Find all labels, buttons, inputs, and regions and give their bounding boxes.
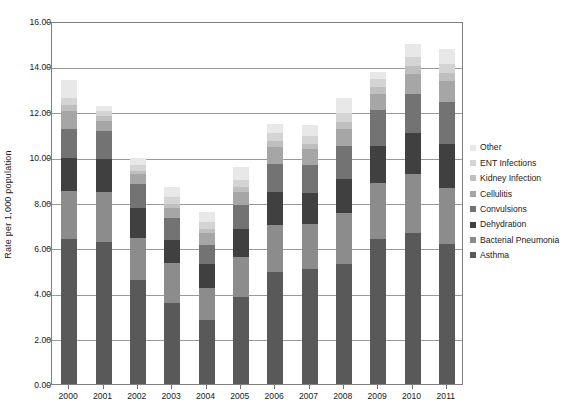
- bar-segment[interactable]: [302, 193, 318, 224]
- bar-segment[interactable]: [61, 129, 77, 158]
- bar-group[interactable]: [405, 23, 421, 384]
- bar-segment[interactable]: [164, 187, 180, 197]
- bar-segment[interactable]: [199, 212, 215, 222]
- legend-item[interactable]: Asthma: [470, 248, 586, 263]
- bar-segment[interactable]: [405, 74, 421, 93]
- bar-segment[interactable]: [405, 66, 421, 74]
- legend-item[interactable]: ENT Infections: [470, 155, 586, 170]
- bar-segment[interactable]: [233, 257, 249, 297]
- bar-segment[interactable]: [267, 147, 283, 164]
- bar-segment[interactable]: [439, 244, 455, 384]
- bar-segment[interactable]: [439, 73, 455, 81]
- bar-segment[interactable]: [336, 98, 352, 113]
- bar-segment[interactable]: [96, 159, 112, 192]
- bar-group[interactable]: [61, 23, 77, 384]
- bar-segment[interactable]: [96, 131, 112, 159]
- bar-segment[interactable]: [233, 167, 249, 179]
- bar-segment[interactable]: [96, 242, 112, 384]
- bar-segment[interactable]: [96, 121, 112, 131]
- legend-item[interactable]: Kidney Infection: [470, 171, 586, 186]
- bar-segment[interactable]: [405, 94, 421, 134]
- bar-segment[interactable]: [439, 188, 455, 245]
- bar-segment[interactable]: [370, 79, 386, 87]
- legend-item[interactable]: Convulsions: [470, 202, 586, 217]
- bar-group[interactable]: [233, 23, 249, 384]
- bar-segment[interactable]: [164, 263, 180, 304]
- bar-segment[interactable]: [267, 133, 283, 141]
- bar-group[interactable]: [96, 23, 112, 384]
- bar-segment[interactable]: [199, 233, 215, 244]
- bar-segment[interactable]: [61, 239, 77, 384]
- legend-item[interactable]: Dehydration: [470, 217, 586, 232]
- bar-segment[interactable]: [233, 205, 249, 229]
- bar-segment[interactable]: [199, 264, 215, 288]
- bar-segment[interactable]: [336, 179, 352, 213]
- bar-segment[interactable]: [130, 280, 146, 384]
- legend-item[interactable]: Other: [470, 140, 586, 155]
- bar-segment[interactable]: [336, 122, 352, 129]
- bar-segment[interactable]: [302, 269, 318, 384]
- bar-segment[interactable]: [302, 125, 318, 135]
- bar-segment[interactable]: [405, 233, 421, 384]
- bar-group[interactable]: [164, 23, 180, 384]
- bar-segment[interactable]: [233, 180, 249, 187]
- bar-segment[interactable]: [336, 264, 352, 384]
- bar-segment[interactable]: [439, 144, 455, 188]
- bar-segment[interactable]: [164, 197, 180, 204]
- bar-segment[interactable]: [267, 272, 283, 384]
- bar-group[interactable]: [302, 23, 318, 384]
- bar-segment[interactable]: [164, 218, 180, 240]
- bar-segment[interactable]: [130, 174, 146, 184]
- bar-segment[interactable]: [199, 288, 215, 321]
- bar-segment[interactable]: [233, 229, 249, 257]
- bar-segment[interactable]: [370, 110, 386, 146]
- bar-segment[interactable]: [405, 174, 421, 233]
- bar-segment[interactable]: [267, 164, 283, 192]
- bar-segment[interactable]: [199, 320, 215, 384]
- bar-segment[interactable]: [267, 192, 283, 225]
- bar-group[interactable]: [439, 23, 455, 384]
- bar-segment[interactable]: [370, 183, 386, 239]
- bar-segment[interactable]: [61, 111, 77, 129]
- bar-segment[interactable]: [405, 44, 421, 58]
- bar-group[interactable]: [199, 23, 215, 384]
- bar-segment[interactable]: [61, 80, 77, 98]
- bar-segment[interactable]: [336, 146, 352, 179]
- bar-segment[interactable]: [61, 191, 77, 239]
- bar-segment[interactable]: [199, 245, 215, 264]
- bar-segment[interactable]: [164, 303, 180, 384]
- bar-segment[interactable]: [439, 64, 455, 73]
- bar-segment[interactable]: [370, 239, 386, 384]
- bar-segment[interactable]: [302, 224, 318, 269]
- bar-segment[interactable]: [199, 222, 215, 229]
- bar-group[interactable]: [370, 23, 386, 384]
- bar-segment[interactable]: [439, 49, 455, 64]
- bar-segment[interactable]: [61, 98, 77, 105]
- bar-segment[interactable]: [370, 72, 386, 79]
- bar-segment[interactable]: [302, 165, 318, 193]
- bar-segment[interactable]: [130, 238, 146, 280]
- bar-segment[interactable]: [302, 149, 318, 165]
- bar-segment[interactable]: [130, 158, 146, 165]
- bar-segment[interactable]: [405, 57, 421, 66]
- bar-segment[interactable]: [96, 192, 112, 242]
- bar-segment[interactable]: [439, 102, 455, 144]
- bar-segment[interactable]: [61, 158, 77, 191]
- bar-segment[interactable]: [439, 81, 455, 101]
- bar-segment[interactable]: [130, 184, 146, 208]
- bar-segment[interactable]: [336, 113, 352, 122]
- bar-segment[interactable]: [370, 146, 386, 183]
- bar-segment[interactable]: [302, 136, 318, 144]
- legend-item[interactable]: Cellulitis: [470, 186, 586, 201]
- bar-segment[interactable]: [233, 297, 249, 384]
- bar-group[interactable]: [336, 23, 352, 384]
- bar-segment[interactable]: [336, 129, 352, 146]
- bar-segment[interactable]: [336, 213, 352, 264]
- bar-group[interactable]: [130, 23, 146, 384]
- bar-segment[interactable]: [164, 240, 180, 263]
- bar-segment[interactable]: [130, 208, 146, 237]
- bar-segment[interactable]: [370, 87, 386, 94]
- bar-segment[interactable]: [164, 208, 180, 218]
- bar-segment[interactable]: [233, 192, 249, 204]
- bar-segment[interactable]: [267, 225, 283, 272]
